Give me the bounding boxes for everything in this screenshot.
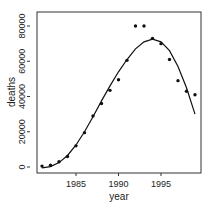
data-point	[57, 160, 60, 163]
y-tick-label: 60000	[17, 49, 27, 74]
data-point	[40, 164, 43, 167]
x-tick-label: 1995	[151, 179, 171, 189]
y-tick-label: 20000	[17, 119, 27, 144]
y-tick-label: 0	[17, 164, 27, 169]
data-point	[151, 37, 154, 40]
data-point	[193, 93, 196, 96]
data-point	[49, 164, 52, 167]
x-tick-label: 1990	[108, 179, 128, 189]
data-point	[100, 102, 103, 105]
data-point	[74, 144, 77, 147]
scatter-chart: 020000400006000080000 198519901995 year …	[0, 0, 211, 207]
y-tick-label: 80000	[17, 13, 27, 38]
data-point	[83, 131, 86, 134]
y-tick-label: 40000	[17, 84, 27, 109]
x-axis: 198519901995	[66, 173, 171, 189]
fitted-curve	[42, 39, 195, 168]
y-axis-label: deaths	[6, 77, 17, 107]
data-point	[117, 78, 120, 81]
data-point	[108, 89, 111, 92]
data-point	[66, 155, 69, 158]
data-point	[168, 58, 171, 61]
data-points	[40, 24, 196, 168]
data-point	[134, 24, 137, 27]
plot-frame	[37, 12, 201, 173]
data-point	[142, 24, 145, 27]
data-point	[176, 79, 179, 82]
data-point	[159, 42, 162, 45]
data-point	[185, 90, 188, 93]
y-axis: 020000400006000080000	[17, 13, 30, 169]
data-point	[91, 114, 94, 117]
data-point	[125, 59, 128, 62]
x-axis-label: year	[109, 191, 129, 202]
x-tick-label: 1985	[66, 179, 86, 189]
